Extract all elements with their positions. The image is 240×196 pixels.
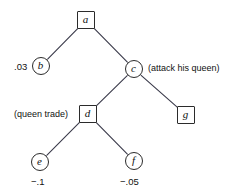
tree-node-g[interactable]: g [177, 106, 195, 124]
tree-node-label-e: e [37, 156, 42, 167]
tree-node-label-g: g [183, 109, 189, 120]
tree-edge-c-d [95, 76, 127, 108]
tree-node-label-a: a [83, 14, 89, 25]
tree-node-label-d: d [85, 108, 91, 119]
tree-edge-d-f [95, 121, 128, 154]
annotation-d-note: (queen trade) [14, 110, 68, 119]
annotation-f-value: −.05 [120, 177, 139, 187]
tree-node-label-f: f [132, 155, 135, 166]
tree-node-a[interactable]: a [77, 11, 95, 29]
tree-node-e[interactable]: e [31, 153, 49, 171]
tree-edge-d-e [47, 121, 82, 156]
tree-edge-a-c [93, 27, 128, 62]
annotation-b-value: .03 [14, 62, 27, 72]
tree-node-label-c: c [131, 63, 136, 74]
tree-node-label-b: b [38, 60, 44, 71]
tree-edge-a-b [48, 27, 80, 59]
annotation-e-value: −.1 [31, 177, 44, 187]
annotation-c-note: (attack his queen) [148, 64, 220, 73]
tree-node-c[interactable]: c [125, 60, 143, 78]
tree-node-d[interactable]: d [79, 105, 97, 123]
tree-edge-c-g [141, 75, 179, 108]
tree-node-f[interactable]: f [125, 152, 143, 170]
tree-node-b[interactable]: b [32, 57, 50, 75]
